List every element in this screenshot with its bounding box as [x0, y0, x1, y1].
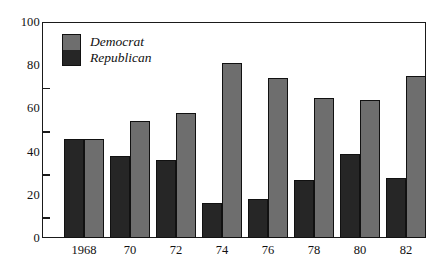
bar-republican-74 — [202, 203, 222, 238]
bar-republican-80 — [340, 154, 360, 238]
bar-chart: 100 80 60 40 20 0 — [0, 0, 440, 272]
bar-democrat-72 — [176, 113, 196, 238]
bar-democrat-80 — [360, 100, 380, 238]
x-tick-label-76: 76 — [246, 244, 290, 257]
x-tick-label-70: 70 — [108, 244, 152, 257]
legend-swatch-republican — [63, 50, 80, 65]
x-tick-label-72: 72 — [154, 244, 198, 257]
y-tick-label-40: 40 — [6, 146, 40, 159]
y-axis: 100 80 60 40 20 0 — [0, 0, 40, 272]
y-tick-label-60: 60 — [6, 102, 40, 115]
bar-republican-82 — [386, 178, 406, 238]
bar-democrat-1968 — [84, 139, 104, 238]
bar-republican-78 — [294, 180, 314, 238]
bar-democrat-74 — [222, 63, 242, 238]
bar-republican-70 — [110, 156, 130, 238]
bar-republican-72 — [156, 160, 176, 238]
y-tick-label-100: 100 — [6, 16, 40, 29]
y-tick-label-80: 80 — [6, 59, 40, 72]
legend: Democrat Republican — [62, 34, 151, 66]
bar-democrat-76 — [268, 78, 288, 238]
legend-swatch — [62, 34, 81, 66]
legend-swatch-democrat — [63, 35, 80, 50]
y-tick-label-0: 0 — [6, 232, 40, 245]
y-tick-label-20: 20 — [6, 189, 40, 202]
bar-democrat-78 — [314, 98, 334, 238]
bar-republican-76 — [248, 199, 268, 238]
bar-democrat-70 — [130, 121, 150, 238]
legend-label-democrat: Democrat — [90, 34, 151, 50]
legend-labels: Democrat Republican — [90, 34, 151, 66]
bar-democrat-82 — [406, 76, 426, 238]
bar-republican-1968 — [64, 139, 84, 238]
legend-label-republican: Republican — [90, 50, 151, 66]
x-tick-label-78: 78 — [292, 244, 336, 257]
x-tick-label-82: 82 — [384, 244, 428, 257]
x-tick-label-80: 80 — [338, 244, 382, 257]
x-tick-label-74: 74 — [200, 244, 244, 257]
x-tick-label-1968: 1968 — [62, 244, 106, 257]
